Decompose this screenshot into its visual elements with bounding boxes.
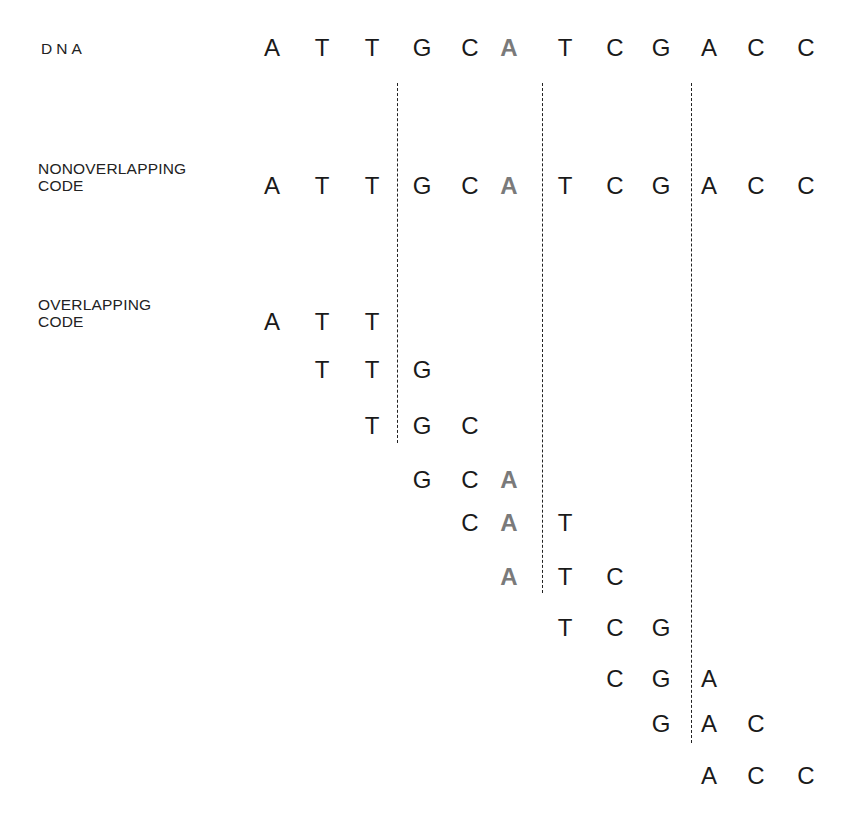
dna-base: G [402, 34, 442, 62]
overlapping-base: T [302, 356, 342, 384]
nonoverlapping-label-line2: CODE [38, 177, 84, 194]
overlapping-base: A [689, 762, 729, 790]
dna-label: DNA [41, 40, 86, 57]
overlapping-base: T [545, 614, 585, 642]
overlapping-base: A [489, 466, 529, 494]
overlapping-label-line1: OVERLAPPING [38, 296, 151, 313]
overlapping-base: C [786, 762, 826, 790]
overlapping-base: T [352, 412, 392, 440]
overlapping-base: T [545, 563, 585, 591]
overlapping-base: G [641, 710, 681, 738]
overlapping-base: C [736, 710, 776, 738]
overlapping-base: A [689, 665, 729, 693]
overlapping-base: G [641, 665, 681, 693]
nonoverlapping-base: A [689, 172, 729, 200]
dna-base: C [786, 34, 826, 62]
overlapping-base: A [252, 308, 292, 336]
overlapping-base: C [736, 762, 776, 790]
overlapping-base: C [595, 614, 635, 642]
codon-boundary-line-1 [397, 83, 398, 443]
nonoverlapping-base: G [402, 172, 442, 200]
codon-boundary-line-2 [542, 83, 543, 593]
overlapping-base: A [489, 509, 529, 537]
overlapping-label-line2: CODE [38, 313, 84, 330]
overlapping-base: G [402, 466, 442, 494]
dna-base: C [595, 34, 635, 62]
nonoverlapping-base: T [352, 172, 392, 200]
nonoverlapping-base: G [641, 172, 681, 200]
overlapping-base: T [352, 356, 392, 384]
dna-base: A [252, 34, 292, 62]
dna-base: A [689, 34, 729, 62]
overlapping-base: A [689, 710, 729, 738]
overlapping-base: G [641, 614, 681, 642]
overlapping-base: T [352, 308, 392, 336]
overlapping-base: C [450, 466, 490, 494]
dna-base: G [641, 34, 681, 62]
nonoverlapping-base: C [450, 172, 490, 200]
dna-base: C [736, 34, 776, 62]
nonoverlapping-base: C [786, 172, 826, 200]
overlapping-base: C [450, 412, 490, 440]
nonoverlapping-base: A [252, 172, 292, 200]
overlapping-base: G [402, 412, 442, 440]
dna-base: T [545, 34, 585, 62]
overlapping-base: C [595, 665, 635, 693]
overlapping-base: A [489, 563, 529, 591]
nonoverlapping-base: C [736, 172, 776, 200]
overlapping-base: C [595, 563, 635, 591]
overlapping-base: T [545, 509, 585, 537]
nonoverlapping-base: A [489, 172, 529, 200]
nonoverlapping-base: T [545, 172, 585, 200]
nonoverlapping-base: C [595, 172, 635, 200]
overlapping-base: G [402, 356, 442, 384]
nonoverlapping-base: T [302, 172, 342, 200]
dna-base: T [352, 34, 392, 62]
dna-base: C [450, 34, 490, 62]
overlapping-base: C [450, 509, 490, 537]
nonoverlapping-label-line1: NONOVERLAPPING [38, 160, 186, 177]
dna-base: A [489, 34, 529, 62]
overlapping-base: T [302, 308, 342, 336]
dna-base: T [302, 34, 342, 62]
